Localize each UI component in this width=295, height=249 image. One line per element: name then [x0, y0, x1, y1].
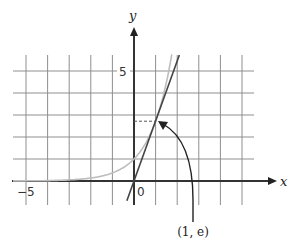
point-label: (1, e): [177, 225, 209, 239]
chart: x y 5 −5 0 (1, e): [0, 0, 295, 249]
x-axis-arrow-icon: [268, 177, 277, 185]
tick-label-origin: 0: [137, 185, 145, 199]
x-axis-label: x: [280, 174, 288, 189]
annotation-arrow: [163, 124, 193, 222]
exp-curve: [13, 54, 172, 180]
y-axis-label: y: [128, 8, 137, 23]
tick-label-x-neg5: −5: [17, 185, 35, 199]
tick-label-y-5: 5: [119, 65, 127, 79]
y-axis-arrow-icon: [130, 27, 138, 36]
x-axis: x: [12, 174, 288, 189]
